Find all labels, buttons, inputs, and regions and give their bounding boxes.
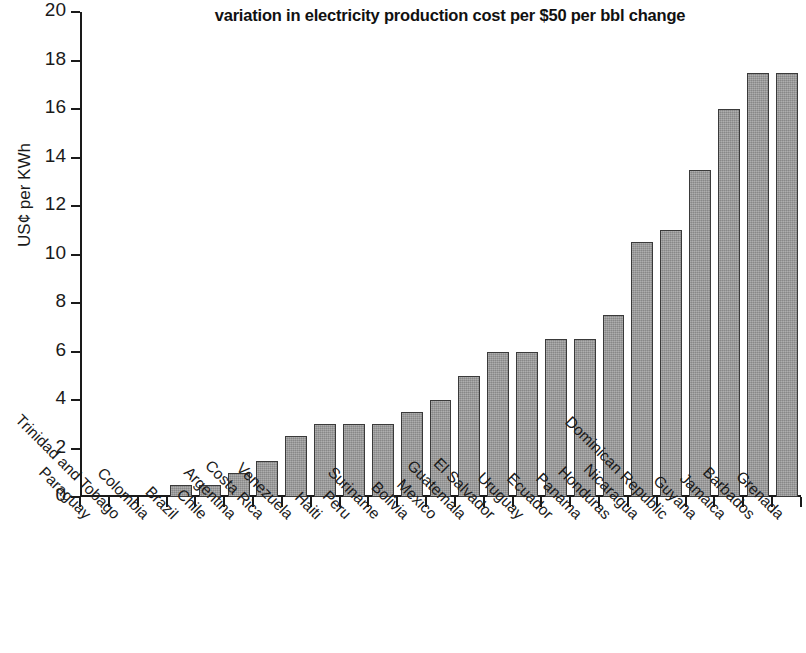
x-label-slot: Honduras bbox=[599, 509, 628, 653]
x-label-slot: Haiti bbox=[311, 509, 340, 653]
bar-slot bbox=[628, 12, 657, 497]
bar[interactable] bbox=[718, 109, 740, 497]
y-tick: 16 bbox=[71, 108, 80, 110]
x-label-slot: Guatemala bbox=[455, 509, 484, 653]
bar[interactable] bbox=[689, 170, 711, 497]
y-tick-label: 18 bbox=[45, 49, 66, 69]
y-tick-label: 6 bbox=[55, 340, 66, 360]
x-label-slot: Argentina bbox=[224, 509, 253, 653]
x-label-slot: Chile bbox=[195, 509, 224, 653]
bar-slot bbox=[282, 12, 311, 497]
x-label-slot: Bolivia bbox=[397, 509, 426, 653]
bar-slot bbox=[484, 12, 513, 497]
x-label-slot: Paraguay bbox=[80, 509, 109, 653]
x-axis-labels: ParaguayTrinidad and TobagoColombiaBrazi… bbox=[80, 509, 801, 653]
y-tick: 8 bbox=[71, 302, 80, 304]
y-tick: 20 bbox=[71, 11, 80, 13]
bar-slot bbox=[368, 12, 397, 497]
bar-slot bbox=[513, 12, 542, 497]
y-tick-label: 4 bbox=[55, 388, 66, 408]
bar[interactable] bbox=[660, 230, 682, 497]
x-label-slot: Ecuador bbox=[541, 509, 570, 653]
x-label-slot: Colombia bbox=[138, 509, 167, 653]
y-tick-label: 10 bbox=[45, 243, 66, 263]
y-axis-label: US¢ per KWh bbox=[15, 115, 35, 275]
bar-slot bbox=[195, 12, 224, 497]
bar[interactable] bbox=[314, 424, 336, 497]
bar-slot bbox=[340, 12, 369, 497]
x-label-slot: Nicaragua bbox=[628, 509, 657, 653]
y-tick-label: 14 bbox=[45, 146, 66, 166]
y-tick: 10 bbox=[71, 254, 80, 256]
bar-slot bbox=[80, 12, 109, 497]
y-tick-label: 20 bbox=[45, 0, 66, 20]
x-label-slot: Dominican Republic bbox=[657, 509, 686, 653]
bar-slot bbox=[397, 12, 426, 497]
x-label-slot: Suriname bbox=[368, 509, 397, 653]
y-tick: 2 bbox=[71, 448, 80, 450]
x-label-slot: Uruguay bbox=[513, 509, 542, 653]
y-tick: 6 bbox=[71, 351, 80, 353]
y-tick: 12 bbox=[71, 205, 80, 207]
y-tick-label: 16 bbox=[45, 97, 66, 117]
bar-slot bbox=[455, 12, 484, 497]
bar-slot bbox=[772, 12, 801, 497]
x-label-slot: Guyana bbox=[686, 509, 715, 653]
plot-area: 02468101214161820 bbox=[80, 12, 801, 497]
x-label-slot: Barbados bbox=[743, 509, 772, 653]
x-label-slot: Trinidad and Tobago bbox=[109, 509, 138, 653]
x-label-slot: Jamaica bbox=[714, 509, 743, 653]
bar-slot bbox=[657, 12, 686, 497]
x-label-slot: El Salvador bbox=[484, 509, 513, 653]
bar-slot bbox=[224, 12, 253, 497]
bar[interactable] bbox=[631, 242, 653, 497]
y-tick: 4 bbox=[71, 399, 80, 401]
bar-slot bbox=[253, 12, 282, 497]
bar-slot bbox=[714, 12, 743, 497]
x-tick bbox=[800, 497, 802, 507]
bar[interactable] bbox=[747, 73, 769, 497]
bar-slot bbox=[426, 12, 455, 497]
bar-slot bbox=[599, 12, 628, 497]
x-label-slot: Venezuela bbox=[282, 509, 311, 653]
x-label-slot: Mexico bbox=[426, 509, 455, 653]
y-tick: 18 bbox=[71, 60, 80, 62]
bar-slot bbox=[743, 12, 772, 497]
y-tick: 14 bbox=[71, 157, 80, 159]
bar[interactable] bbox=[776, 73, 798, 497]
bar-slot bbox=[311, 12, 340, 497]
bar-slot bbox=[138, 12, 167, 497]
x-label-slot: Costa Rica bbox=[253, 509, 282, 653]
x-label-slot: Brazil bbox=[167, 509, 196, 653]
y-tick-label: 12 bbox=[45, 194, 66, 214]
bar-slot bbox=[109, 12, 138, 497]
bar-slot bbox=[686, 12, 715, 497]
bar-series bbox=[80, 12, 801, 497]
y-tick-label: 8 bbox=[55, 291, 66, 311]
x-label-slot: Peru bbox=[340, 509, 369, 653]
x-label-slot: Grenada bbox=[772, 509, 801, 653]
bar-chart: variation in electricity production cost… bbox=[0, 0, 806, 653]
x-label-slot: Panama bbox=[570, 509, 599, 653]
bar-slot bbox=[167, 12, 196, 497]
